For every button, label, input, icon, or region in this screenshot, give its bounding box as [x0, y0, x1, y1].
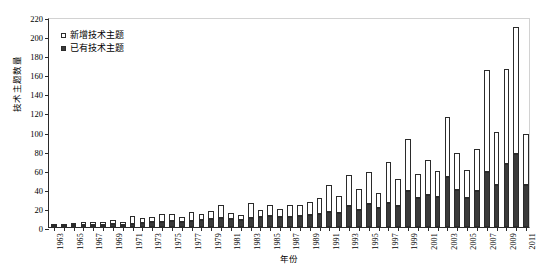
x-axis-title: 年份	[48, 252, 530, 264]
bar-2010	[513, 27, 519, 227]
bar-2008	[494, 132, 500, 227]
x-axis-tick	[182, 227, 183, 231]
bar-segment-existing	[228, 219, 234, 227]
y-axis-tick-label: 20	[35, 206, 44, 215]
y-axis-tick-label: 0	[39, 225, 43, 234]
bar-1972	[140, 218, 146, 227]
bar-segment-existing	[415, 198, 421, 227]
bar-1986	[277, 209, 283, 227]
x-axis-tick	[270, 227, 271, 231]
x-axis-tick	[497, 227, 498, 231]
bar-segment-existing	[513, 154, 519, 227]
y-axis-tick-label: 140	[30, 91, 43, 100]
bar-1974	[159, 214, 165, 227]
bar-segment-existing	[346, 206, 352, 227]
x-axis-tick	[310, 227, 311, 231]
bar-segment-existing	[169, 221, 175, 227]
y-axis-tick-label: 120	[30, 110, 43, 119]
bar-segment-existing	[179, 222, 185, 227]
bar-segment-existing	[523, 185, 529, 227]
bar-1995	[366, 172, 372, 227]
x-axis-tick-label: 2001	[431, 233, 439, 250]
x-axis-tick-label: 1997	[392, 233, 400, 250]
x-axis-tick	[516, 227, 517, 231]
x-axis-tick	[388, 227, 389, 231]
bar-segment-new	[130, 216, 136, 225]
bar-segment-existing	[248, 218, 254, 227]
bar-1971	[130, 216, 136, 227]
bar-segment-existing	[149, 222, 155, 227]
bar-segment-existing	[199, 220, 205, 227]
x-axis-tick	[221, 227, 222, 231]
bar-segment-new	[445, 117, 451, 177]
y-axis-tick-label: 200	[30, 34, 43, 43]
x-axis-tick	[359, 227, 360, 231]
x-axis-tick	[329, 227, 330, 231]
bar-segment-new	[248, 203, 254, 218]
y-axis-tick	[45, 172, 49, 173]
bar-segment-new	[326, 185, 332, 212]
x-axis-tick	[369, 227, 370, 231]
y-axis-tick	[45, 114, 49, 115]
bar-1968	[100, 222, 106, 227]
x-axis-tick	[152, 227, 153, 231]
bar-segment-existing	[189, 221, 195, 227]
bar-1975	[169, 214, 175, 227]
x-axis-tick	[83, 227, 84, 231]
bar-segment-new	[317, 198, 323, 213]
bar-segment-existing	[454, 190, 460, 227]
bar-1997	[386, 162, 392, 227]
x-axis-tick	[477, 227, 478, 231]
bar-2001	[425, 160, 431, 227]
x-axis-tick	[526, 227, 527, 231]
x-axis-tick	[300, 227, 301, 231]
bar-1989	[307, 202, 313, 227]
bar-1977	[189, 212, 195, 227]
bar-segment-existing	[405, 191, 411, 227]
x-axis-tick-label: 2011	[529, 233, 537, 250]
bar-segment-existing	[267, 216, 273, 227]
bar-segment-existing	[435, 197, 441, 227]
bar-segment-existing	[258, 217, 264, 227]
bar-segment-new	[513, 27, 519, 155]
legend-label-existing: 已有技术主题	[70, 42, 124, 55]
x-axis-tick-label: 1981	[234, 233, 242, 250]
bar-segment-existing	[218, 218, 224, 227]
bar-segment-existing	[61, 225, 67, 227]
bar-segment-existing	[100, 225, 106, 227]
bar-1981	[228, 213, 234, 227]
bar-2003	[445, 117, 451, 227]
bar-segment-existing	[386, 203, 392, 227]
y-axis-tick	[45, 134, 49, 135]
bar-segment-existing	[395, 206, 401, 227]
x-axis-tick	[54, 227, 55, 231]
bar-1966	[81, 222, 87, 227]
bar-1973	[149, 217, 155, 228]
bar-segment-new	[258, 210, 264, 218]
bar-segment-existing	[484, 172, 490, 227]
x-axis-tick	[457, 227, 458, 231]
bar-1967	[90, 222, 96, 227]
y-axis-tick	[45, 191, 49, 192]
y-axis-tick-label: 60	[35, 167, 44, 176]
x-axis-tick	[133, 227, 134, 231]
bar-1985	[267, 205, 273, 227]
bar-1999	[405, 139, 411, 227]
bar-1978	[199, 214, 205, 227]
x-axis-tick-label: 1973	[155, 233, 163, 250]
x-axis-tick	[93, 227, 94, 231]
x-axis-tick-label: 1999	[411, 233, 419, 250]
bar-segment-new	[386, 162, 392, 203]
bar-1980	[218, 205, 224, 227]
bar-segment-new	[425, 160, 431, 194]
y-axis-tick	[45, 38, 49, 39]
y-axis-tick	[45, 210, 49, 211]
bar-2004	[454, 153, 460, 227]
bar-segment-existing	[504, 164, 510, 227]
legend-item-existing: 已有技术主题	[61, 42, 124, 55]
bar-segment-new	[307, 202, 313, 214]
bar-segment-new	[159, 214, 165, 223]
bar-1996	[376, 193, 382, 227]
x-axis-tick	[339, 227, 340, 231]
x-axis-tick	[506, 227, 507, 231]
